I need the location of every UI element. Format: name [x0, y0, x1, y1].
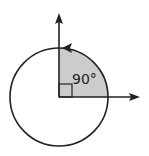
angle-label: 90°: [72, 71, 97, 87]
diagram-canvas: 90°: [0, 0, 149, 156]
